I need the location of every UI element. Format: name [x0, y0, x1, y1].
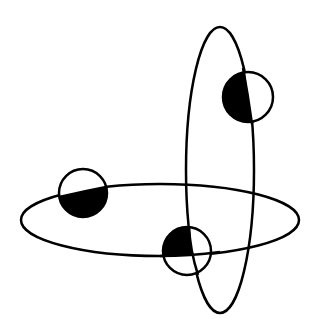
orbital-diagram [0, 0, 319, 333]
body-bottom-center [150, 215, 220, 275]
body-left [50, 169, 115, 225]
body-top-right [215, 60, 273, 135]
